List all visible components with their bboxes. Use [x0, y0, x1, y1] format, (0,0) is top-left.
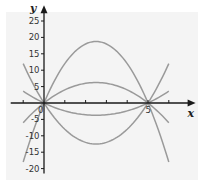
y-tick-label: 15 [29, 49, 40, 59]
quadratic-family-chart: 05252015105-5-10-15-20 x y [0, 0, 204, 185]
y-tick-label: -20 [26, 164, 40, 174]
y-tick-label: 20 [29, 32, 40, 42]
x-tick-label: 5 [146, 105, 151, 115]
y-tick-label: -10 [26, 131, 40, 141]
y-tick-label: -15 [26, 147, 40, 157]
y-tick-label: -5 [31, 114, 39, 124]
y-tick-label: 25 [29, 16, 40, 26]
y-tick-label: 5 [34, 82, 39, 92]
y-tick-label: 10 [29, 65, 40, 75]
x-axis-title: x [187, 107, 195, 120]
